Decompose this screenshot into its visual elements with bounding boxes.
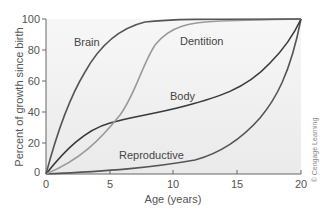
y-tick-80: 80	[28, 44, 40, 56]
body-label: Body	[170, 90, 196, 102]
x-axis-label: Age (years)	[145, 193, 202, 205]
reproductive-label: Reproductive	[119, 149, 184, 161]
dentition-label: Dentition	[180, 35, 223, 47]
copyright-credit: © Cengage Learning	[311, 118, 319, 183]
x-tick-15: 15	[231, 178, 243, 190]
growth-chart: 100 80 60 40 20 0 0 5 10 15 20 Age (year…	[0, 0, 328, 217]
brain-label: Brain	[74, 36, 100, 48]
y-tick-20: 20	[28, 137, 40, 149]
y-tick-0: 0	[34, 166, 40, 178]
y-tick-60: 60	[28, 75, 40, 87]
y-tick-40: 40	[28, 106, 40, 118]
y-tick-100: 100	[22, 13, 40, 25]
x-tick-10: 10	[167, 178, 179, 190]
x-tick-0: 0	[43, 178, 49, 190]
x-tick-5: 5	[107, 178, 113, 190]
x-tick-20: 20	[295, 178, 307, 190]
y-ticks	[42, 19, 46, 143]
y-axis-label: Percent of growth since birth	[13, 27, 25, 166]
